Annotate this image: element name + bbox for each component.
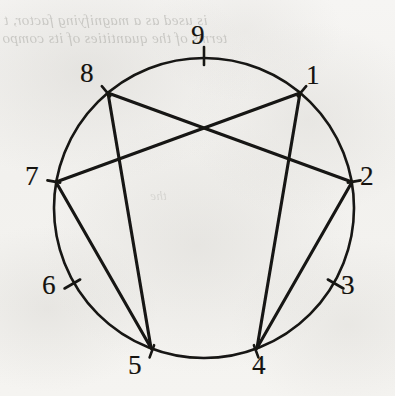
diagram-canvas bbox=[0, 0, 395, 396]
node-label-1: 1 bbox=[306, 62, 320, 89]
node-label-7: 7 bbox=[25, 163, 39, 190]
node-label-8: 8 bbox=[80, 60, 94, 87]
node-label-2: 2 bbox=[360, 163, 374, 190]
node-label-3: 3 bbox=[341, 272, 355, 299]
node-label-4: 4 bbox=[252, 352, 266, 379]
circle-outline bbox=[54, 58, 354, 358]
node-label-9: 9 bbox=[191, 22, 205, 49]
chord-group bbox=[56, 93, 352, 348]
node-label-5: 5 bbox=[128, 352, 142, 379]
node-label-6: 6 bbox=[42, 272, 56, 299]
circle-chord-figure: is used as a magnifying factor, t terms … bbox=[0, 0, 395, 396]
